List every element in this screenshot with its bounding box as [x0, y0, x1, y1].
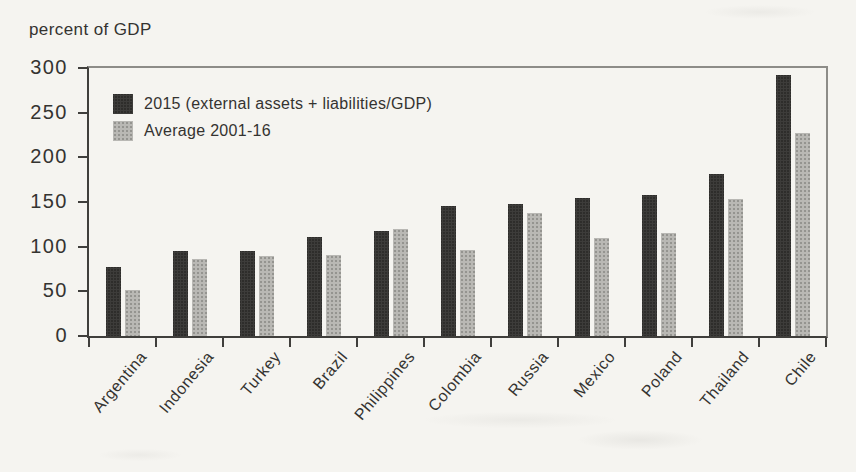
bar-2015-thailand	[709, 174, 724, 336]
chart-axis-title: percent of GDP	[29, 20, 152, 40]
y-axis-tick	[78, 156, 87, 158]
x-axis-tick	[758, 338, 760, 347]
bar-group-thailand: Thailand	[692, 68, 759, 336]
y-axis-tick-label: 300	[30, 56, 68, 79]
y-axis-tick-label: 250	[30, 101, 68, 124]
category-label-brazil: Brazil	[309, 348, 351, 393]
category-label-turkey: Turkey	[237, 348, 284, 399]
x-axis-tick	[88, 338, 90, 347]
x-axis-tick	[289, 338, 291, 347]
y-axis-tick	[78, 290, 87, 292]
bar-2015-turkey	[240, 251, 255, 336]
bar-average-philippines	[393, 229, 408, 336]
legend-swatch-average	[113, 121, 133, 141]
y-axis-tick	[78, 246, 87, 248]
legend-item-2015: 2015 (external assets + liabilities/GDP)	[113, 94, 432, 114]
category-label-philippines: Philippines	[351, 348, 419, 424]
category-label-indonesia: Indonesia	[155, 348, 217, 417]
legend-item-average: Average 2001-16	[113, 121, 432, 141]
bar-average-indonesia	[192, 259, 207, 336]
bar-chart-figure: percent of GDP 050100150200250300 Argent…	[0, 0, 856, 472]
bar-2015-philippines	[374, 231, 389, 336]
category-label-poland: Poland	[638, 348, 686, 400]
bar-group-russia: Russia	[491, 68, 558, 336]
category-label-mexico: Mexico	[571, 348, 620, 401]
y-axis-tick	[78, 335, 87, 337]
plot-area: 050100150200250300 ArgentinaIndonesiaTur…	[87, 66, 828, 338]
bar-average-russia	[527, 213, 542, 336]
bar-2015-poland	[642, 195, 657, 336]
x-axis-tick	[624, 338, 626, 347]
x-axis-tick	[423, 338, 425, 347]
y-axis-tick-label: 100	[30, 235, 68, 258]
bar-average-brazil	[326, 255, 341, 336]
bar-average-colombia	[460, 250, 475, 336]
category-label-argentina: Argentina	[89, 348, 150, 416]
y-axis-tick	[78, 201, 87, 203]
x-axis-tick	[490, 338, 492, 347]
x-axis-tick	[557, 338, 559, 347]
bar-average-argentina	[125, 290, 140, 336]
category-label-russia: Russia	[505, 348, 553, 400]
category-label-thailand: Thailand	[697, 348, 753, 410]
bar-group-mexico: Mexico	[558, 68, 625, 336]
bar-average-turkey	[259, 256, 274, 336]
x-axis-tick	[222, 338, 224, 347]
x-axis-tick	[155, 338, 157, 347]
bar-2015-brazil	[307, 237, 322, 336]
bar-group-chile: Chile	[759, 68, 826, 336]
bar-average-poland	[661, 233, 676, 336]
category-label-chile: Chile	[781, 348, 820, 390]
bar-2015-mexico	[575, 198, 590, 336]
bar-group-colombia: Colombia	[424, 68, 491, 336]
y-axis-tick	[78, 112, 87, 114]
bar-average-mexico	[594, 238, 609, 336]
bar-2015-indonesia	[173, 251, 188, 336]
bar-2015-argentina	[106, 267, 121, 336]
bar-average-chile	[795, 133, 810, 336]
y-axis-tick	[78, 67, 87, 69]
x-axis-tick	[356, 338, 358, 347]
bar-2015-chile	[776, 75, 791, 336]
legend-swatch-2015	[113, 94, 133, 114]
y-axis-tick-label: 50	[43, 279, 68, 302]
legend-label-2015: 2015 (external assets + liabilities/GDP)	[144, 95, 432, 113]
bar-2015-colombia	[441, 206, 456, 336]
legend-label-average: Average 2001-16	[144, 122, 271, 140]
chart-legend: 2015 (external assets + liabilities/GDP)…	[113, 94, 432, 141]
category-label-colombia: Colombia	[425, 348, 485, 415]
bar-group-poland: Poland	[625, 68, 692, 336]
y-axis-tick-label: 200	[30, 145, 68, 168]
x-axis-tick	[691, 338, 693, 347]
bar-2015-russia	[508, 204, 523, 336]
y-axis-tick-label: 150	[30, 190, 68, 213]
bar-average-thailand	[728, 199, 743, 336]
y-axis-tick-label: 0	[55, 324, 68, 347]
x-axis-tick	[825, 338, 827, 347]
